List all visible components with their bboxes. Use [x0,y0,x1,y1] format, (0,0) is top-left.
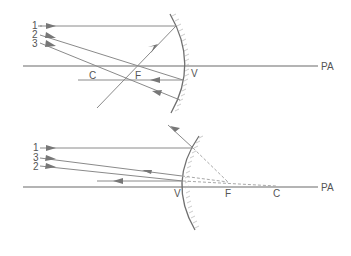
ray-1-reflected-top [97,26,176,108]
concave-mirror-panel: PA [23,14,334,113]
label-C-bottom: C [273,188,280,199]
arrow-icon [142,170,152,174]
arrow-icon [46,23,56,29]
arrow-icon [46,145,56,151]
ray-2-virtual-bottom [183,181,276,186]
convex-mirror [182,136,199,230]
arrow-icon [148,44,158,53]
axis-label-top: PA [321,61,334,72]
arrow-icon [45,163,56,169]
arrow-icon [45,32,56,38]
ray-1-virtual-bottom [193,148,228,182]
ray-1-reflected-bottom [168,125,193,148]
arrow-icon [150,77,160,83]
arrow-icon [170,126,180,132]
ray-label-2-bottom: 2 [33,161,39,172]
arrow-icon [45,40,56,47]
label-C-top: C [89,70,96,81]
label-F-top: F [135,70,141,81]
arrow-icon [113,178,123,184]
convex-mirror-panel: PA [23,125,334,230]
label-F-bottom: F [225,188,231,199]
arrow-icon [152,90,162,96]
mirror-hatching-top [172,14,189,111]
ray-label-3-top: 3 [32,38,38,49]
ray-2-incident-top [40,35,183,80]
label-V-top: V [191,68,198,79]
label-V-bottom: V [174,188,181,199]
axis-label-bottom: PA [321,182,334,193]
ray-diagram-canvas: PA [0,0,351,256]
